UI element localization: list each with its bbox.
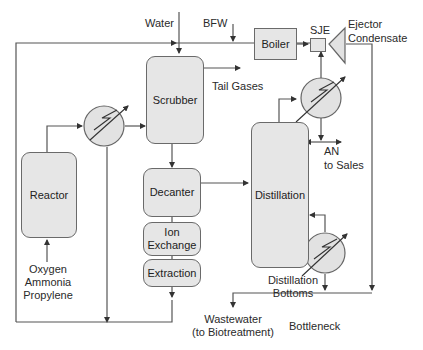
wastewater-line2: (to Biotreatment) [185, 326, 281, 339]
an-to-sales-label-line2: to Sales [324, 159, 364, 172]
feed-ammonia: Ammonia [23, 276, 73, 289]
decanter-unit: Decanter [143, 168, 201, 217]
tail-gases-label: Tail Gases [212, 80, 263, 93]
feed-label: Oxygen Ammonia Propylene [23, 263, 73, 302]
ion-exchange-label-line2: Exchange [148, 239, 197, 252]
scrubber-unit: Scrubber [146, 56, 204, 144]
ejector-condensate-label-line2: Condensate [348, 32, 407, 45]
distillation-label: Distillation [255, 189, 305, 202]
feed-oxygen: Oxygen [23, 263, 73, 276]
distillation-bottoms-label: Distillation Bottoms [260, 274, 326, 300]
distillation-unit: Distillation [251, 122, 309, 268]
sje-unit [310, 38, 326, 52]
heat-exchanger-icon [84, 106, 128, 146]
distillation-bottoms-line1: Distillation [260, 274, 326, 287]
feed-propylene: Propylene [23, 289, 73, 302]
extraction-label: Extraction [148, 267, 197, 280]
boiler-unit: Boiler [254, 28, 297, 60]
sje-label: SJE [310, 24, 330, 37]
an-to-sales-label-line1: AN [324, 145, 339, 158]
ion-exchange-label-line1: Ion [164, 226, 179, 239]
water-label: Water [145, 17, 174, 30]
heat-exchanger-icon [296, 77, 345, 122]
ion-exchange-unit: Ion Exchange [143, 222, 201, 256]
reactor-label: Reactor [30, 189, 69, 202]
bottleneck-annotation: Bottleneck [289, 320, 340, 333]
reactor-unit: Reactor [21, 152, 77, 238]
extraction-unit: Extraction [143, 259, 201, 287]
scrubber-label: Scrubber [153, 94, 198, 107]
ejector-icon [329, 28, 345, 63]
ejector-condensate-label-line1: Ejector [348, 18, 382, 31]
wastewater-label: Wastewater (to Biotreatment) [185, 313, 281, 339]
boiler-label: Boiler [261, 38, 289, 51]
decanter-label: Decanter [150, 186, 195, 199]
bfw-label: BFW [203, 17, 227, 30]
process-flow-diagram: Reactor Scrubber Decanter Ion Exchange E… [0, 0, 423, 350]
wastewater-line1: Wastewater [185, 313, 281, 326]
distillation-bottoms-line2: Bottoms [260, 287, 326, 300]
